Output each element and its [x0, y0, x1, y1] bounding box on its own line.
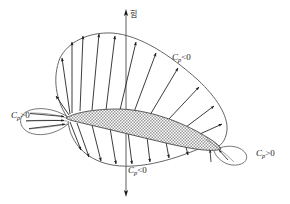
- pressure-vector: [29, 124, 65, 128]
- pressure-vector: [110, 128, 116, 164]
- label-leading-edge-cp: Cp>0: [11, 110, 30, 121]
- cp-value: 0: [25, 110, 30, 120]
- cp-value: 0: [270, 148, 275, 158]
- pressure-vector: [186, 106, 214, 127]
- pressure-vector: [210, 150, 211, 162]
- force-axis-label: 힘: [130, 8, 137, 19]
- pressure-vector: [120, 42, 136, 110]
- pressure-vector: [200, 124, 222, 134]
- pressure-vector: [92, 125, 101, 161]
- pressure-vector: [77, 123, 89, 157]
- pressure-vector: [150, 68, 178, 115]
- cp-value: 0: [142, 165, 147, 175]
- trailing-edge-pressure-vectors: [210, 150, 228, 162]
- pressure-vector: [147, 137, 150, 162]
- cp-value: 0: [186, 52, 191, 62]
- label-lower-surface-cp: Cp<0: [128, 165, 147, 176]
- label-upper-surface-cp: Cp<0: [172, 52, 191, 63]
- airfoil-body: [66, 109, 221, 150]
- pressure-vector: [106, 36, 115, 110]
- pressure-vector: [168, 87, 199, 120]
- pressure-vector: [92, 34, 99, 110]
- leading-edge-pressure-vectors: [26, 114, 65, 129]
- pressure-vector: [128, 132, 132, 164]
- pressure-vector: [62, 58, 70, 114]
- label-trailing-edge-cp: Cp>0: [256, 148, 275, 159]
- pressure-vector: [80, 36, 83, 111]
- pressure-vector: [134, 53, 156, 112]
- pressure-vector: [166, 142, 169, 158]
- pressure-distribution-figure: 힘 Cp<0 Cp<0 Cp>0 Cp>0: [0, 0, 290, 204]
